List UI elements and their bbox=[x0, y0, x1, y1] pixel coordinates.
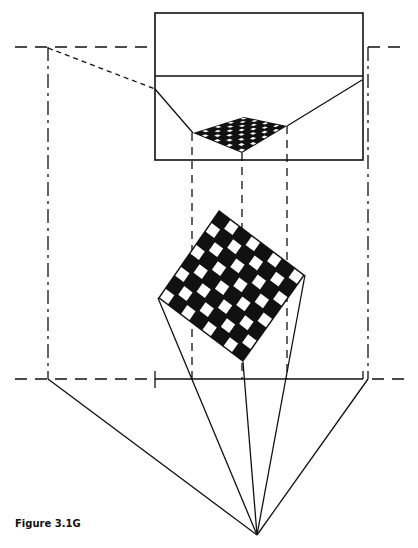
sight-line-3 bbox=[243, 362, 257, 535]
sight-line-1 bbox=[48, 379, 257, 535]
perspective-diagram bbox=[0, 0, 418, 548]
vanishing-line-right bbox=[287, 80, 362, 126]
perspective-checkerboard bbox=[193, 117, 287, 153]
figure-caption: Figure 3.1G bbox=[15, 518, 81, 529]
vanishing-line-left bbox=[155, 89, 193, 133]
dotted-vanishing-line bbox=[48, 48, 155, 89]
sight-line-5 bbox=[257, 379, 368, 535]
plan-checkerboard bbox=[158, 210, 305, 362]
